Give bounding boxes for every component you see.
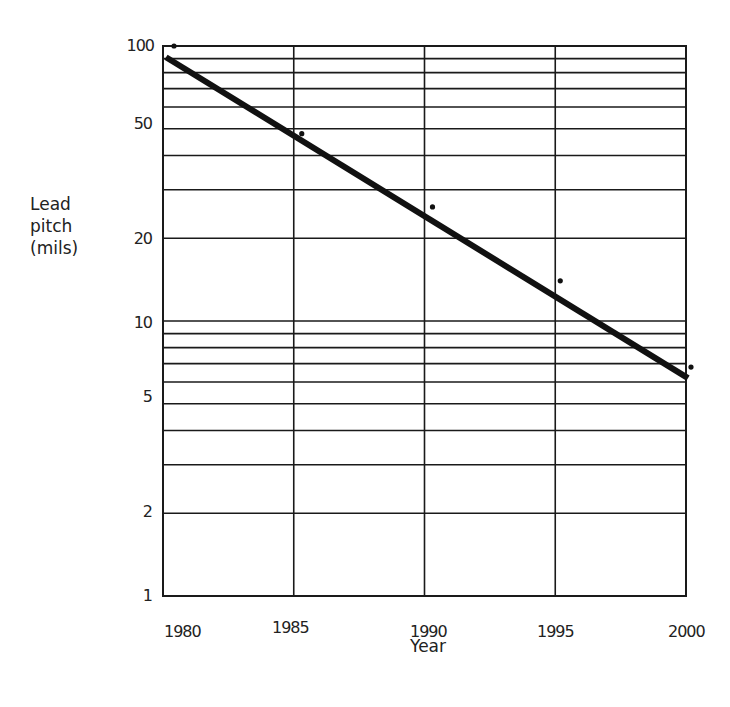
data-point-1980 bbox=[171, 43, 176, 48]
y-tick-100: 100 bbox=[114, 36, 154, 55]
x-tick-1995: 1995 bbox=[537, 622, 574, 641]
y-tick-20: 20 bbox=[112, 229, 152, 248]
y-axis-label-line-3: (mils) bbox=[30, 237, 90, 259]
chart-plot-area bbox=[0, 0, 730, 707]
x-tick-1985: 1985 bbox=[272, 618, 309, 637]
y-tick-10: 10 bbox=[112, 313, 152, 332]
y-tick-1: 1 bbox=[112, 586, 152, 605]
y-axis-label-line-1: Lead bbox=[30, 193, 90, 215]
data-point-2000 bbox=[688, 364, 693, 369]
data-point-1990 bbox=[430, 204, 435, 209]
y-axis-label-line-2: pitch bbox=[30, 215, 90, 237]
y-tick-50: 50 bbox=[112, 114, 152, 133]
x-tick-1980: 1980 bbox=[164, 622, 201, 641]
data-point-1995 bbox=[558, 278, 563, 283]
x-tick-2000: 2000 bbox=[668, 622, 705, 641]
y-tick-2: 2 bbox=[112, 502, 152, 521]
trend-line bbox=[166, 57, 688, 378]
data-point-1985 bbox=[299, 131, 304, 136]
x-axis-label: Year bbox=[410, 636, 446, 656]
y-tick-5: 5 bbox=[112, 387, 152, 406]
y-axis-label: Lead pitch (mils) bbox=[30, 193, 90, 259]
